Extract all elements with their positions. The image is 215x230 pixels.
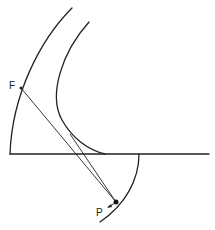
lower-arc [100, 154, 139, 222]
outer-arc [10, 8, 72, 154]
arrowhead-icon [107, 204, 112, 208]
ray-from-focus [21, 88, 116, 202]
label-f: F [9, 80, 15, 91]
diagram-canvas: F P [0, 0, 215, 230]
label-p: P [96, 207, 103, 218]
inner-curve [56, 22, 105, 154]
point-f [20, 87, 23, 90]
tangent-ray [70, 134, 116, 202]
